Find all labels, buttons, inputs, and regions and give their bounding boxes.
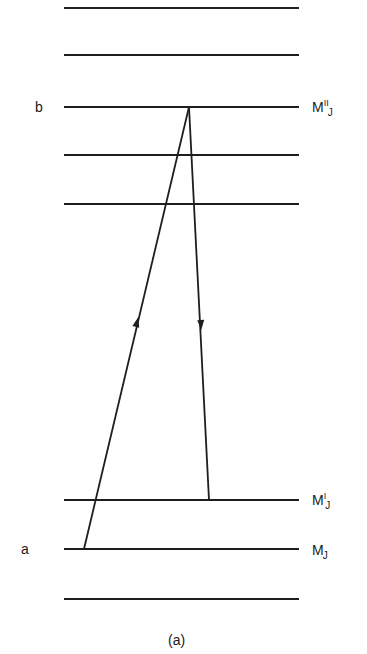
level-label-b: b (35, 100, 43, 114)
absorption-transition-line (84, 107, 189, 549)
state-label-m-i-j: MIJ (312, 493, 330, 507)
arrow-up-icon (132, 317, 139, 328)
state-label-m-ii-j: MIIJ (312, 100, 333, 114)
emission-transition-line (189, 107, 209, 500)
transitions (84, 107, 209, 549)
state-label-m-j: MJ (312, 543, 328, 557)
figure-caption: (a) (168, 633, 185, 647)
arrow-down-icon (197, 320, 204, 330)
energy-levels (64, 8, 299, 599)
level-label-a: a (21, 542, 29, 556)
transition-arrows (132, 317, 204, 330)
